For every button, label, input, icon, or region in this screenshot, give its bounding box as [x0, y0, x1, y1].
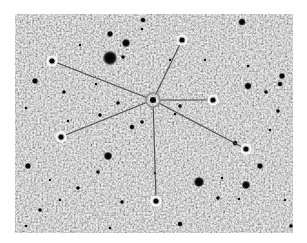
field-star — [76, 186, 80, 190]
field-star — [79, 44, 81, 46]
field-star — [59, 199, 61, 201]
marked-star-dot — [58, 134, 63, 139]
marked-star-dot — [179, 37, 184, 42]
marked-star-dot — [49, 58, 54, 63]
field-star — [96, 170, 100, 174]
field-star — [38, 208, 42, 212]
field-star — [194, 177, 204, 187]
field-star — [25, 163, 31, 169]
field-star — [178, 104, 182, 108]
field-star — [122, 39, 130, 47]
field-star — [216, 196, 220, 200]
field-star — [103, 51, 117, 65]
field-star — [242, 181, 250, 189]
field-star — [95, 83, 98, 86]
field-star — [121, 55, 125, 59]
field-star — [67, 120, 70, 123]
field-star — [169, 59, 171, 61]
field-star — [130, 125, 135, 130]
field-star — [279, 73, 285, 79]
star-field-figure — [0, 0, 307, 243]
field-star — [98, 113, 102, 117]
field-star — [178, 222, 183, 227]
field-star — [221, 177, 224, 180]
field-star — [247, 65, 250, 68]
field-star — [120, 200, 124, 204]
center-star-dot — [150, 97, 156, 103]
field-star — [107, 31, 113, 37]
field-star — [141, 28, 144, 31]
field-star — [204, 59, 206, 61]
marked-star-dot — [243, 146, 248, 151]
field-star — [257, 163, 263, 169]
field-star — [245, 83, 252, 90]
field-star — [276, 109, 280, 113]
field-star — [238, 198, 241, 201]
field-star — [289, 224, 293, 228]
field-star — [174, 113, 177, 116]
field-star — [32, 78, 38, 84]
field-star — [62, 90, 66, 94]
field-star — [116, 101, 120, 105]
field-star — [264, 90, 268, 94]
field-star — [49, 179, 51, 181]
field-star — [25, 225, 28, 228]
field-star — [269, 129, 272, 132]
star-field-image — [0, 0, 307, 243]
field-star — [141, 18, 146, 23]
marked-star-dot — [210, 97, 215, 102]
field-star — [239, 19, 246, 26]
marked-star-dot — [153, 198, 158, 203]
field-star — [109, 227, 112, 230]
field-star — [278, 82, 283, 87]
field-star — [140, 120, 144, 124]
field-star — [25, 107, 28, 110]
field-star — [104, 152, 112, 160]
field-star — [284, 199, 286, 201]
